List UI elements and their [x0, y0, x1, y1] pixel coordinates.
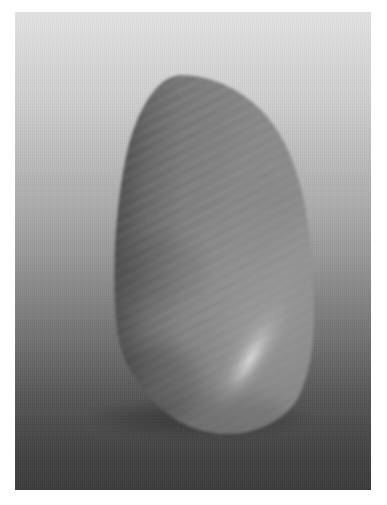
screenshot-root [0, 0, 387, 505]
pod-render-svg [15, 12, 371, 490]
pod-body-group [15, 12, 371, 490]
pod-bottom-crease [151, 394, 291, 446]
ridged-pod-object [15, 12, 371, 490]
pod-mid-left-pocket [121, 236, 201, 304]
render-plate [15, 12, 371, 490]
